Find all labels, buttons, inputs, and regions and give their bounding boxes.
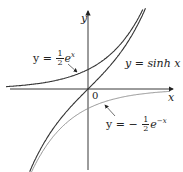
label-half-exp: y = 12ex [33,50,75,67]
label-sinh: y = sinh x [125,58,180,69]
origin-label: 0 [92,91,98,101]
label-neg-half-exp-neg: y = − 12e−x [106,116,167,133]
sinh-diagram: y x 0 y = 12ex y = sinh x y = − 12e−x [0,0,183,172]
pointer-neg-half-exp-neg [105,105,115,116]
curve-half-exp [6,10,143,87]
x-axis-label: x [168,92,174,103]
y-axis-label: y [81,13,87,24]
plot-canvas [0,0,183,172]
